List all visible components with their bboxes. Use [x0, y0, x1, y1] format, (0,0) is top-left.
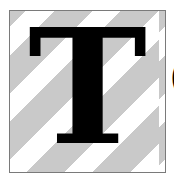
- letter-logo-tile: T: [9, 10, 166, 173]
- cropped-text-fragment: (: [168, 48, 174, 104]
- logo-letter: T: [10, 10, 165, 173]
